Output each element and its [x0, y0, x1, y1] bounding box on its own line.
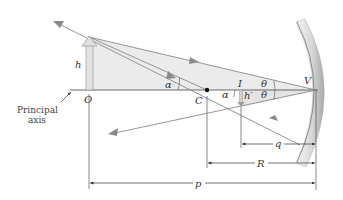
mirror-ray-diagram: h O α C α I h′ θ θ V Principal axis q R …	[0, 0, 343, 200]
label-alpha-2: α	[222, 89, 229, 100]
label-alpha-1: α	[165, 79, 172, 90]
angle-arc-alpha-2	[234, 90, 235, 97]
label-r: R	[256, 158, 265, 169]
label-o: O	[84, 94, 92, 105]
label-axis: axis	[28, 115, 46, 125]
label-theta-1: θ	[261, 78, 267, 89]
label-h-prime: h′	[244, 90, 253, 101]
label-v: V	[304, 75, 313, 86]
center-of-curvature-dot	[205, 88, 209, 92]
ray-arrowhead-upper-left	[53, 21, 64, 28]
ray-arrowhead-lower-left	[108, 128, 118, 136]
ray-vertex-reflected	[110, 90, 316, 134]
label-theta-2: θ	[261, 89, 267, 100]
ray-arrowhead-reflected	[269, 115, 278, 121]
label-p: p	[195, 178, 202, 189]
principal-axis-pointer	[61, 92, 71, 102]
label-h: h	[75, 59, 81, 70]
label-q: q	[275, 138, 281, 149]
label-principal: Principal	[17, 105, 58, 115]
label-c: C	[195, 95, 203, 106]
